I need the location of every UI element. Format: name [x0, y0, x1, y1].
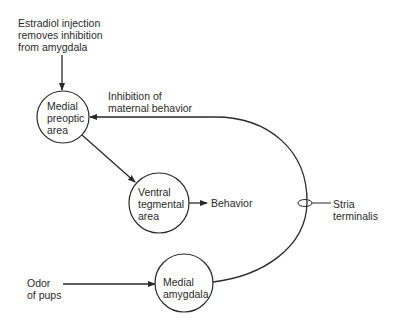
- mpoa-to-vta-arrow: [82, 135, 135, 182]
- inhibition-label-line: Inhibition of: [108, 90, 192, 102]
- stria-terminalis-marker: [298, 200, 312, 207]
- mpoa-node-label: Medial preoptic area: [47, 100, 84, 136]
- odor-label: Odor of pups: [27, 277, 61, 301]
- inhibition-label: Inhibition of maternal behavior: [108, 90, 192, 114]
- inhibition-label-line: maternal behavior: [108, 102, 192, 114]
- behavior-label: Behavior: [211, 197, 252, 209]
- amygdala-node-label: Medial amygdala: [163, 276, 209, 300]
- diagram-canvas: Estradiol injection removes inhibition f…: [0, 0, 397, 323]
- stria-label-line: terminalis: [333, 210, 378, 222]
- estradiol-label-line: from amygdala: [18, 41, 103, 53]
- mpoa-label-line: preoptic: [47, 112, 84, 124]
- mpoa-label-line: area: [47, 124, 84, 136]
- estradiol-label-line: Estradiol injection: [18, 17, 103, 29]
- amygdala-label-line: Medial: [163, 276, 209, 288]
- stria-terminalis-label: Stria terminalis: [333, 198, 378, 222]
- vta-label-line: Ventral: [138, 186, 184, 198]
- odor-label-line: Odor: [27, 277, 61, 289]
- mpoa-label-line: Medial: [47, 100, 84, 112]
- vta-label-line: tegmental: [138, 198, 184, 210]
- stria-label-line: Stria: [333, 198, 378, 210]
- amygdala-label-line: amygdala: [163, 288, 209, 300]
- vta-node-label: Ventral tegmental area: [138, 186, 184, 222]
- vta-label-line: area: [138, 210, 184, 222]
- estradiol-label: Estradiol injection removes inhibition f…: [18, 17, 103, 53]
- odor-label-line: of pups: [27, 289, 61, 301]
- estradiol-label-line: removes inhibition: [18, 29, 103, 41]
